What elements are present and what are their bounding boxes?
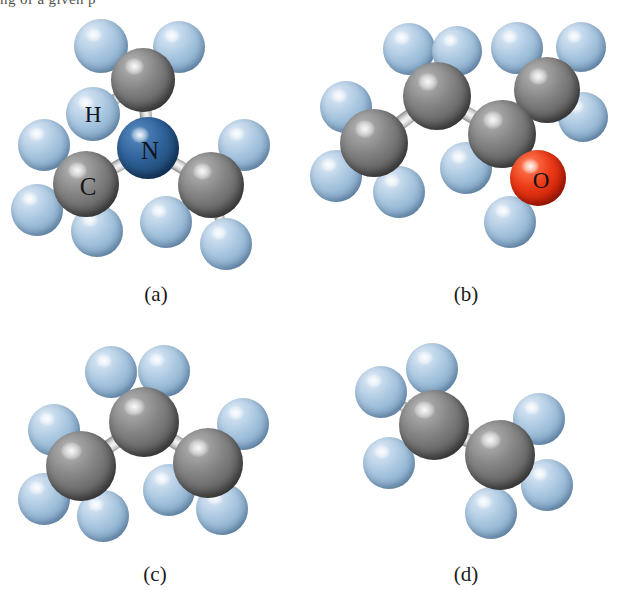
panel-c-stage	[0, 300, 311, 590]
atom-c	[465, 420, 535, 490]
atom-c	[53, 151, 119, 217]
panel-d-ethane	[311, 300, 623, 590]
atom-h	[355, 366, 407, 418]
atom-c	[173, 428, 243, 498]
atom-c	[111, 48, 175, 112]
panel-a-stage: HNC	[0, 0, 311, 295]
panel-d-stage	[311, 300, 623, 590]
panel-caption-b: (b)	[454, 282, 479, 307]
panel-caption-a: (a)	[144, 282, 167, 307]
atom-h	[200, 218, 252, 270]
panel-b-butan-2-ol: O	[311, 0, 623, 295]
atom-h	[465, 487, 517, 539]
atom-c	[403, 62, 471, 130]
atom-n	[117, 117, 179, 179]
panel-b-stage: O	[311, 0, 623, 295]
atom-h	[66, 87, 120, 141]
atom-o	[510, 150, 566, 206]
atom-c	[399, 390, 469, 460]
atom-c	[46, 431, 116, 501]
atom-c	[340, 109, 408, 177]
panel-caption-d: (d)	[454, 562, 479, 587]
atom-c	[178, 152, 244, 218]
atom-h	[406, 343, 458, 395]
atom-c	[109, 387, 179, 457]
panel-c-propane	[0, 300, 311, 590]
panel-caption-c: (c)	[143, 562, 166, 587]
panel-a-trimethylamine: HNC	[0, 0, 311, 295]
